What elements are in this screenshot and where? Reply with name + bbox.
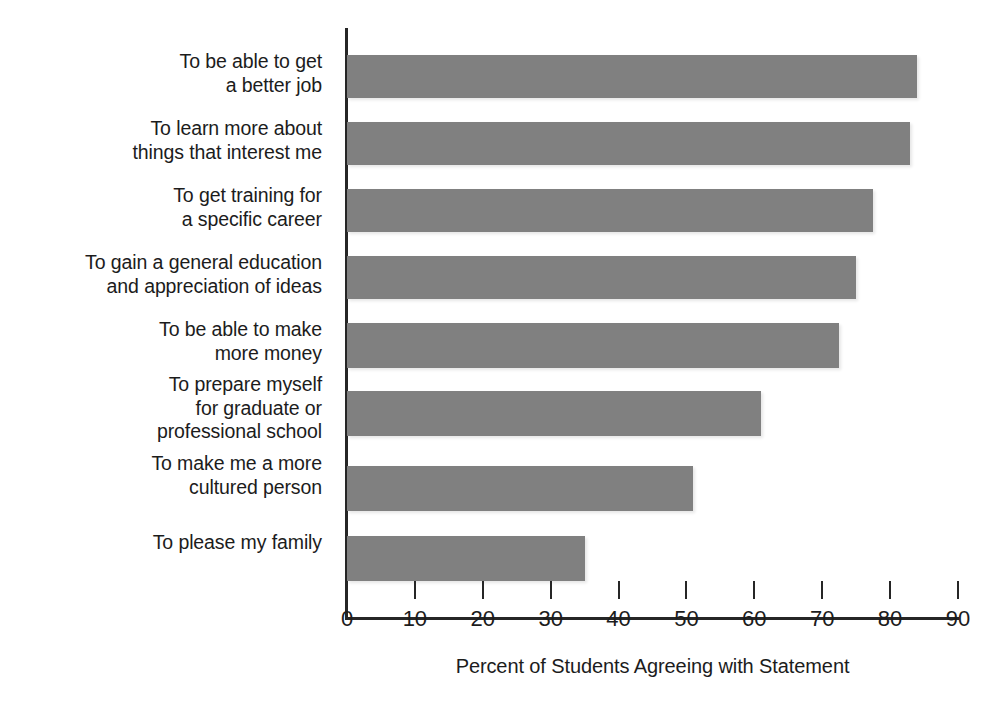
x-tick bbox=[957, 581, 959, 599]
category-label: To be able to make more money bbox=[0, 318, 322, 365]
x-tick-label: 20 bbox=[453, 606, 513, 632]
plot-area bbox=[347, 28, 958, 617]
x-tick-label: 80 bbox=[860, 606, 920, 632]
x-tick bbox=[482, 581, 484, 599]
bar-chart: To be able to get a better job To learn … bbox=[0, 0, 1005, 706]
category-label: To prepare myself for graduate or profes… bbox=[0, 373, 322, 444]
x-tick-label: 0 bbox=[317, 606, 377, 632]
bar-4 bbox=[347, 323, 839, 368]
category-label: To gain a general education and apprecia… bbox=[0, 251, 322, 298]
bar-1 bbox=[347, 122, 910, 165]
x-tick-label: 10 bbox=[385, 606, 445, 632]
bar-3 bbox=[347, 256, 856, 299]
x-tick bbox=[550, 581, 552, 599]
bar-7 bbox=[347, 536, 585, 581]
x-tick bbox=[889, 581, 891, 599]
x-tick-label: 90 bbox=[928, 606, 988, 632]
x-tick bbox=[685, 581, 687, 599]
bar-0 bbox=[347, 55, 917, 98]
bar-6 bbox=[347, 466, 693, 511]
x-tick-label: 60 bbox=[724, 606, 784, 632]
bar-5 bbox=[347, 391, 761, 436]
category-label-column: To be able to get a better job To learn … bbox=[0, 28, 334, 617]
x-tick-label: 40 bbox=[589, 606, 649, 632]
category-label: To make me a more cultured person bbox=[0, 452, 322, 499]
x-tick-label: 70 bbox=[792, 606, 852, 632]
category-label: To please my family bbox=[0, 531, 322, 555]
x-tick bbox=[414, 581, 416, 599]
x-tick bbox=[821, 581, 823, 599]
x-tick bbox=[753, 581, 755, 599]
x-axis-title: Percent of Students Agreeing with Statem… bbox=[347, 655, 958, 678]
category-label: To get training for a specific career bbox=[0, 184, 322, 231]
x-tick bbox=[618, 581, 620, 599]
category-label: To be able to get a better job bbox=[0, 50, 322, 97]
x-tick-label: 50 bbox=[656, 606, 716, 632]
x-tick bbox=[346, 581, 348, 599]
category-label: To learn more about things that interest… bbox=[0, 117, 322, 164]
bar-2 bbox=[347, 189, 873, 232]
x-tick-label: 30 bbox=[521, 606, 581, 632]
